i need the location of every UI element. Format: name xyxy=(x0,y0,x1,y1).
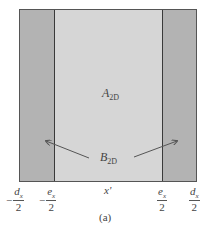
axis-variable-label: x' xyxy=(104,184,111,196)
arrows xyxy=(0,0,216,234)
right-arrow-icon xyxy=(134,141,177,157)
tick-pos-ex-half: ex2 xyxy=(157,186,167,213)
figure-caption: (a) xyxy=(99,211,111,223)
tick-neg-ex-half: −ex2 xyxy=(39,186,56,213)
left-arrow-icon xyxy=(46,141,89,158)
tick-neg-dx-half: −dx2 xyxy=(6,186,24,213)
tick-pos-dx-half: dx2 xyxy=(189,186,200,213)
